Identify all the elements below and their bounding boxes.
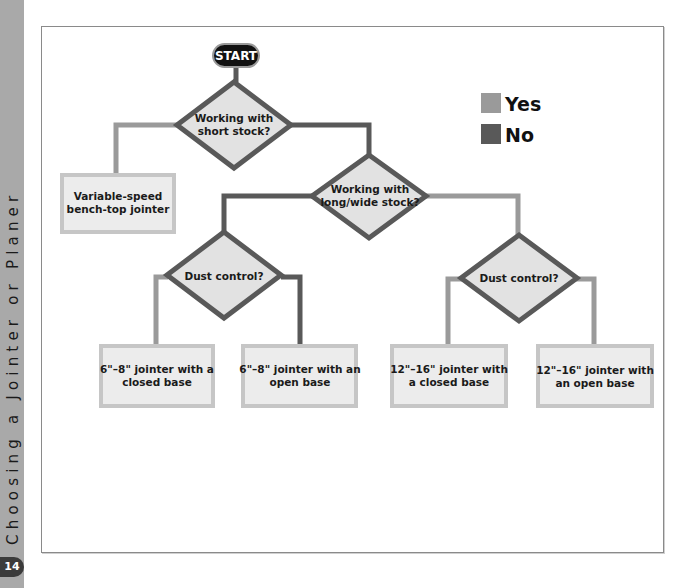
edge-d4-yes-right [576,279,594,346]
edge-d3-no [281,277,300,346]
decision-long-wide-stock: Working with long/wide stock? [312,155,426,238]
decision-label: Working with [331,183,410,195]
outcome-bench-top-jointer: Variable-speed bench-top jointer [62,175,174,232]
outcome-12-16-closed: 12"–16" jointer with a closed base [390,346,508,406]
edge-d4-yes [448,279,462,346]
decision-label: Working with [195,112,274,124]
legend-no-swatch [481,124,501,144]
outcome-label: 12"–16" jointer with [390,363,508,375]
outcome-label: bench-top jointer [67,203,171,215]
decision-label: short stock? [198,125,271,137]
outcome-label: open base [270,376,331,388]
decision-label: Dust control? [479,272,558,284]
legend-yes-swatch [481,93,501,113]
outcome-label: 12"–16" jointer with [536,364,654,376]
outcome-label: a closed base [409,376,489,388]
outcome-label: 6"–8" jointer with a [100,363,214,375]
outcome-label: closed base [122,376,192,388]
edge-d1-yes [116,125,178,175]
outcome-label: an open base [555,377,634,389]
edge-d3-yes [156,277,168,346]
legend-no-label: No [505,124,534,146]
outcome-label: Variable-speed [74,190,163,202]
outcome-12-16-open: 12"–16" jointer with an open base [536,346,654,406]
edge-d2-yes [425,196,518,235]
legend: Yes No [481,93,541,146]
decision-dust-control-right: Dust control? [461,235,577,321]
decision-label: Dust control? [184,270,263,282]
start-label: START [215,49,258,63]
outcome-6-8-closed: 6"–8" jointer with a closed base [100,346,214,406]
decision-short-stock: Working with short stock? [177,82,291,168]
outcome-label: 6"–8" jointer with an [239,363,360,375]
decision-label: long/wide stock? [320,196,419,208]
outcome-6-8-open: 6"–8" jointer with an open base [239,346,360,406]
flowchart: START Working with short stock? Working … [0,0,683,588]
legend-yes-label: Yes [504,93,541,115]
edge-d2-no [224,196,313,232]
start-node: START [213,44,259,67]
edge-d1-no [290,125,369,156]
decision-dust-control-left: Dust control? [167,232,281,318]
